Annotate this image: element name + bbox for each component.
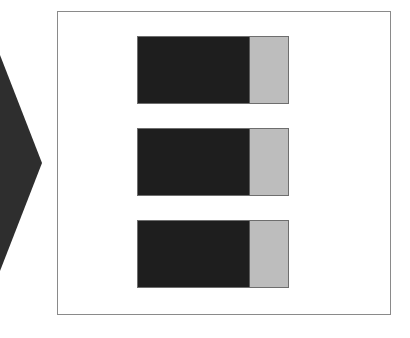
arrow-pointer-icon [0,0,60,338]
bar-light-segment [249,129,288,195]
bar-light-segment [249,221,288,287]
bar-row-2 [137,128,289,196]
bar-dark-segment [138,129,249,195]
bar-dark-segment [138,221,249,287]
bar-row-3 [137,220,289,288]
bar-light-segment [249,37,288,103]
arrow-shape [0,55,42,271]
bar-row-1 [137,36,289,104]
bar-dark-segment [138,37,249,103]
